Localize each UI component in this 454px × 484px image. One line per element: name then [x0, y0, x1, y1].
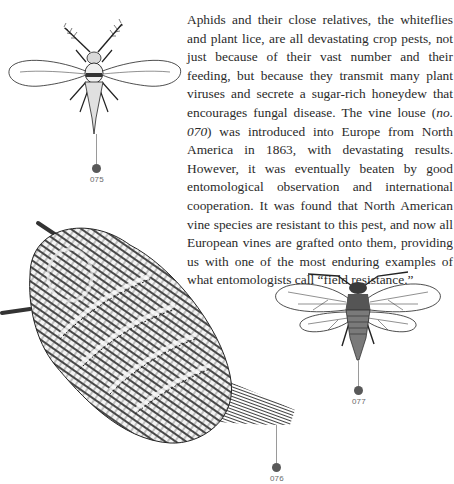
plant-louse-illustration — [268, 270, 448, 370]
figure-label: 077 — [344, 397, 374, 406]
leader-line — [358, 360, 359, 386]
figure-075: 075 — [0, 0, 185, 185]
paragraph-text-start: Aphids and their close relatives, the wh… — [187, 12, 453, 120]
marker-dot — [92, 164, 101, 173]
marker-dot — [354, 386, 363, 395]
marker-dot — [272, 463, 281, 472]
figure-label: 075 — [82, 175, 112, 184]
woolly-scale-insect-illustration — [0, 205, 300, 450]
figure-077: 077 — [268, 270, 448, 410]
leader-line — [276, 425, 277, 463]
whitefly-illustration — [0, 0, 185, 140]
leader-line — [96, 134, 97, 164]
figure-label: 076 — [262, 474, 292, 483]
figure-076: 076 — [0, 205, 300, 484]
